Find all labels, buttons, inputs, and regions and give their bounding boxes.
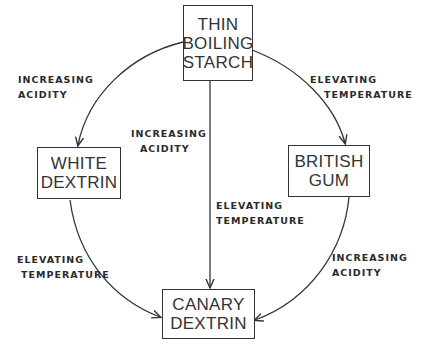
node-line: BOILING <box>182 34 253 53</box>
label-british-to-canary: INCREASING ACIDITY <box>332 250 408 280</box>
node-line: GUM <box>294 171 363 190</box>
node-line: WHITE <box>41 154 118 173</box>
label-starch-to-white: INCREASING ACIDITY <box>18 72 94 102</box>
label-white-to-canary: ELEVATING TEMPERATURE <box>17 252 110 282</box>
label-starch-to-british: ELEVATING TEMPERATURE <box>310 72 413 102</box>
node-white-dextrin: WHITE DEXTRIN <box>37 147 121 199</box>
node-line: DEXTRIN <box>170 314 247 333</box>
node-thin-boiling-starch: THIN BOILING STARCH <box>183 5 253 81</box>
node-line: STARCH <box>182 53 253 72</box>
node-canary-dextrin: CANARY DEXTRIN <box>162 289 255 339</box>
node-line: DEXTRIN <box>41 173 118 192</box>
label-starch-to-canary-upper: INCREASING ACIDITY <box>131 126 207 156</box>
node-line: THIN <box>182 15 253 34</box>
node-british-gum: BRITISH GUM <box>288 145 370 197</box>
node-line: BRITISH <box>294 152 363 171</box>
node-line: CANARY <box>170 295 247 314</box>
label-starch-to-canary-lower: ELEVATING TEMPERATURE <box>216 198 305 228</box>
